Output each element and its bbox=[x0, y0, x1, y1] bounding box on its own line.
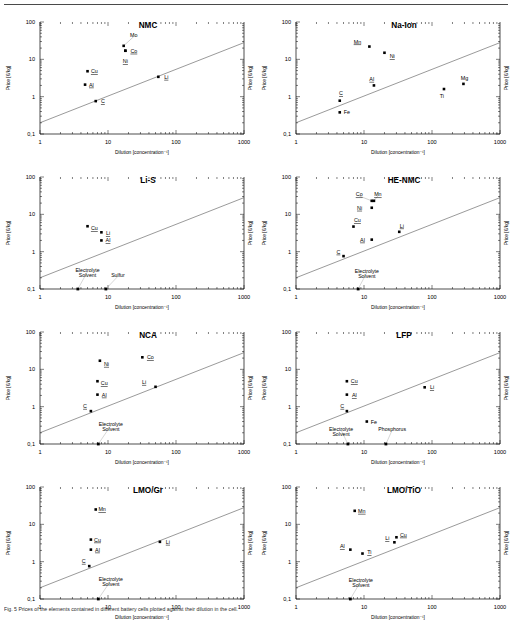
y-tick-label: 10 bbox=[285, 366, 291, 372]
x-tick-label: 100 bbox=[171, 294, 180, 300]
figure-caption: Fig. 5 Prices of the elements contained … bbox=[4, 606, 508, 613]
data-point-label: Ni bbox=[104, 361, 109, 367]
data-point-marker bbox=[346, 393, 349, 396]
y-tick-label: 100 bbox=[26, 329, 35, 335]
data-point-marker bbox=[373, 84, 376, 87]
annotation-label: Solvent bbox=[358, 273, 376, 279]
chart-panel-na-ion: 11010010001001010,1Dilution [concentrati… bbox=[256, 8, 512, 163]
data-point-marker bbox=[349, 548, 352, 551]
leader-line bbox=[386, 430, 392, 444]
chart-panel-li-s: 11010010001001010,1Dilution [concentrati… bbox=[0, 163, 256, 318]
x-tick-label: 1000 bbox=[238, 449, 250, 455]
data-point-marker bbox=[96, 393, 99, 396]
reference-line bbox=[40, 508, 244, 588]
x-tick-label: 10 bbox=[105, 139, 111, 145]
data-point-marker bbox=[357, 288, 360, 291]
y-tick-label: 1 bbox=[288, 249, 291, 255]
data-point-label: Fe bbox=[344, 109, 350, 115]
y-axis-label: Price [€/kg] bbox=[262, 220, 267, 245]
x-tick-label: 1000 bbox=[494, 449, 506, 455]
x-tick-label: 1000 bbox=[238, 294, 250, 300]
data-point-marker bbox=[94, 100, 97, 103]
data-point-marker bbox=[393, 541, 396, 544]
data-point-label: Al bbox=[89, 82, 94, 88]
annotation-label: Phosphorus bbox=[378, 426, 406, 432]
x-tick-label: 1 bbox=[294, 294, 297, 300]
data-point-marker bbox=[97, 598, 100, 601]
data-point-marker bbox=[159, 541, 162, 544]
data-point-marker bbox=[352, 225, 355, 228]
data-point-marker bbox=[90, 548, 93, 551]
data-point-label: Al bbox=[340, 543, 345, 549]
data-point-marker bbox=[338, 111, 341, 114]
data-point-marker bbox=[398, 231, 401, 234]
data-point-label: Al bbox=[360, 237, 365, 243]
data-point-label: Cu bbox=[101, 380, 108, 386]
panel-title: Li-S bbox=[140, 176, 156, 185]
y-axis-label: Price [€/kg] bbox=[6, 375, 11, 400]
data-point-marker bbox=[124, 49, 127, 52]
y-axis-label: Price [€/kg] bbox=[6, 65, 11, 90]
y-tick-label: 0,1 bbox=[27, 131, 35, 137]
reference-line bbox=[40, 198, 244, 278]
data-point-marker bbox=[395, 536, 398, 539]
reference-line bbox=[296, 508, 500, 588]
panel-title: LFP bbox=[396, 331, 412, 340]
y-tick-label: 1 bbox=[32, 94, 35, 100]
data-point-marker bbox=[338, 99, 341, 102]
data-point-label: Al bbox=[102, 392, 107, 398]
x-tick-label: 100 bbox=[427, 294, 436, 300]
data-point-label: Mg bbox=[461, 75, 469, 81]
y-axis-label-right: Price [€/kg] bbox=[504, 220, 509, 245]
y-axis-label-right: Price [€/kg] bbox=[248, 530, 253, 555]
chart-panel-lmo-tio: 11010010001001010,1Dilution [concentrati… bbox=[256, 473, 512, 624]
data-point-label: Mn bbox=[358, 508, 366, 514]
y-tick-label: 10 bbox=[29, 366, 35, 372]
x-tick-label: 100 bbox=[171, 449, 180, 455]
data-point-label: Al bbox=[95, 547, 100, 553]
x-tick-label: 10 bbox=[105, 449, 111, 455]
y-tick-label: 1 bbox=[32, 559, 35, 565]
data-point-marker bbox=[368, 45, 371, 48]
y-tick-label: 10 bbox=[29, 521, 35, 527]
x-axis-label: Dilution [concentration⁻¹] bbox=[115, 615, 170, 620]
x-tick-label: 10 bbox=[105, 294, 111, 300]
x-tick-label: 100 bbox=[171, 139, 180, 145]
data-point-marker bbox=[76, 288, 79, 291]
data-point-marker bbox=[122, 45, 125, 48]
y-tick-label: 10 bbox=[29, 56, 35, 62]
panel-title: Na-Ion bbox=[391, 21, 416, 30]
data-point-marker bbox=[346, 380, 349, 383]
y-tick-label: 0,1 bbox=[283, 131, 291, 137]
data-point-label: Ni bbox=[357, 205, 362, 211]
y-tick-label: 1 bbox=[288, 94, 291, 100]
y-tick-label: 100 bbox=[26, 174, 35, 180]
x-tick-label: 10 bbox=[361, 449, 367, 455]
y-tick-label: 100 bbox=[282, 174, 291, 180]
top-divider-rule bbox=[4, 4, 508, 5]
annotation-label: Solvent bbox=[102, 426, 120, 432]
data-point-marker bbox=[361, 552, 364, 555]
y-axis-label: Price [€/kg] bbox=[262, 65, 267, 90]
y-axis-label: Price [€/kg] bbox=[262, 530, 267, 555]
data-point-label: Cu bbox=[94, 537, 101, 543]
y-tick-label: 0,1 bbox=[27, 441, 35, 447]
data-point-label: Cu bbox=[91, 68, 98, 74]
data-point-marker bbox=[353, 510, 356, 513]
y-tick-label: 0,1 bbox=[283, 286, 291, 292]
data-point-label: Al bbox=[352, 392, 357, 398]
data-point-label: Co bbox=[356, 191, 363, 197]
data-point-marker bbox=[141, 356, 144, 359]
reference-line bbox=[40, 43, 244, 123]
data-point-label: Li bbox=[106, 230, 110, 236]
data-point-label: Ti bbox=[440, 93, 444, 99]
data-point-label: C bbox=[101, 98, 105, 104]
y-tick-label: 0,1 bbox=[27, 596, 35, 602]
y-axis-label-right: Price [€/kg] bbox=[504, 65, 509, 90]
data-point-label: Li bbox=[385, 535, 389, 541]
data-point-label: Li bbox=[166, 539, 170, 545]
reference-line bbox=[296, 198, 500, 278]
y-axis-label: Price [€/kg] bbox=[6, 220, 11, 245]
data-point-marker bbox=[423, 386, 426, 389]
data-point-marker bbox=[86, 70, 89, 73]
